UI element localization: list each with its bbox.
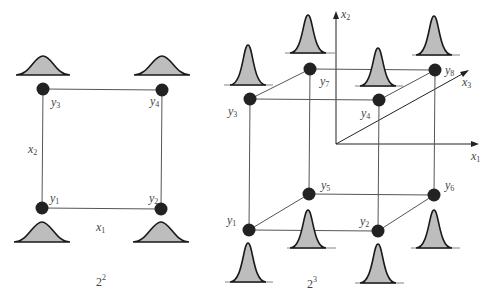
label-y3: y3 xyxy=(227,104,237,119)
arrowhead-x2-icon xyxy=(333,11,339,19)
node-y2 xyxy=(372,225,385,238)
label-y4: y4 xyxy=(149,94,159,109)
node-y5 xyxy=(303,188,316,201)
factorial-design-diagram: y3 y4 y1 y2 x2 x1 22 xyxy=(0,0,494,301)
label-y1: y1 xyxy=(49,191,59,206)
axis-label-x3: x3 xyxy=(461,75,471,90)
edge-y3-y1 xyxy=(42,89,43,208)
caption-2-cubed: 23 xyxy=(307,275,317,291)
node-y6 xyxy=(428,189,441,202)
arrowhead-x1-icon xyxy=(471,141,479,147)
axis-label-x1: x1 xyxy=(470,149,480,164)
distribution-curve-y5 xyxy=(287,210,336,248)
axis-x3 xyxy=(336,73,464,144)
caption-2-squared: 22 xyxy=(96,273,106,289)
edge-y4-y2 xyxy=(161,90,162,209)
distribution-curve-y6 xyxy=(411,210,460,248)
distribution-curve-y2 xyxy=(133,222,189,242)
label-y7: y7 xyxy=(319,74,329,89)
distribution-curve-y4 xyxy=(134,56,190,75)
node-y3 xyxy=(244,93,257,106)
node-y3 xyxy=(37,83,50,96)
label-y8: y8 xyxy=(444,63,454,78)
node-y1 xyxy=(243,224,256,237)
cube-design-2x2x2: y3 y7 y4 y8 y5 y6 y1 y2 x2 x1 x3 23 xyxy=(224,7,480,291)
axis-label-x2-left: x2 xyxy=(27,142,37,157)
distribution-curve-y2 xyxy=(355,244,404,283)
node-y4 xyxy=(156,84,169,97)
node-y8 xyxy=(429,64,442,77)
label-y5: y5 xyxy=(320,178,330,193)
distribution-curve-y1 xyxy=(14,222,70,242)
node-y1 xyxy=(36,202,49,215)
distribution-curve-y4 xyxy=(355,48,403,86)
distribution-curve-y3 xyxy=(224,45,273,85)
cube-edges xyxy=(249,69,435,231)
distribution-curve-y3 xyxy=(16,56,70,75)
label-y1: y1 xyxy=(226,213,236,228)
coordinate-axes xyxy=(333,11,479,147)
edge-y3-y4 xyxy=(43,89,162,90)
label-y4: y4 xyxy=(360,106,370,121)
distribution-curve-y1 xyxy=(225,243,273,282)
edge-y1-y2 xyxy=(42,208,161,209)
label-y6: y6 xyxy=(444,178,454,193)
node-y7 xyxy=(304,63,317,76)
label-y2: y2 xyxy=(148,191,158,206)
node-y4 xyxy=(373,94,386,107)
distribution-curve-y7 xyxy=(285,15,335,53)
axis-label-x1-left: x1 xyxy=(95,220,105,235)
axis-label-x2: x2 xyxy=(340,7,350,22)
distribution-curve-y8 xyxy=(412,16,460,55)
label-y2: y2 xyxy=(359,214,369,229)
square-design-2x2: y3 y4 y1 y2 x2 x1 22 xyxy=(14,56,190,289)
label-y3: y3 xyxy=(50,95,60,110)
